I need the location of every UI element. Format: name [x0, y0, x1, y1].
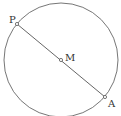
label-P: P	[9, 14, 16, 25]
point-P-marker	[15, 22, 18, 25]
label-A: A	[107, 98, 116, 109]
point-M-marker	[59, 58, 62, 61]
point-A-marker	[103, 95, 106, 98]
label-M: M	[65, 52, 75, 63]
geometry-diagram: P M A	[0, 0, 121, 116]
